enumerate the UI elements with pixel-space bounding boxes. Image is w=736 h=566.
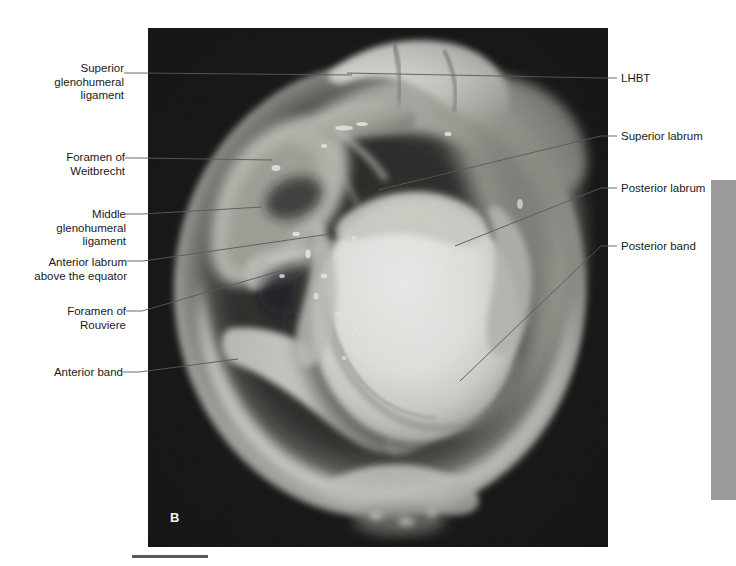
- label-foramen-of-weitbrecht: Foramen of Weitbrecht: [0, 151, 125, 178]
- anatomy-figure: B Superior glenohumeral ligament Foramen…: [0, 0, 736, 566]
- label-middle-glenohumeral-ligament: Middle glenohumeral ligament: [0, 208, 126, 249]
- label-anterior-labrum-above-the-equator: Anterior labrum above the equator: [0, 256, 127, 283]
- specimen-photograph: B: [148, 28, 608, 547]
- label-superior-labrum: Superior labrum: [621, 130, 703, 144]
- label-anterior-band: Anterior band: [0, 366, 123, 380]
- scale-bar: [132, 555, 208, 558]
- label-lhbt: LHBT: [621, 72, 650, 86]
- label-superior-glenohumeral-ligament: Superior glenohumeral ligament: [0, 62, 124, 103]
- label-posterior-band: Posterior band: [621, 240, 696, 254]
- label-posterior-labrum: Posterior labrum: [621, 182, 705, 196]
- panel-letter: B: [170, 510, 180, 525]
- page-edge-tab: [711, 180, 736, 500]
- label-foramen-of-rouviere: Foramen of Rouviere: [0, 305, 126, 332]
